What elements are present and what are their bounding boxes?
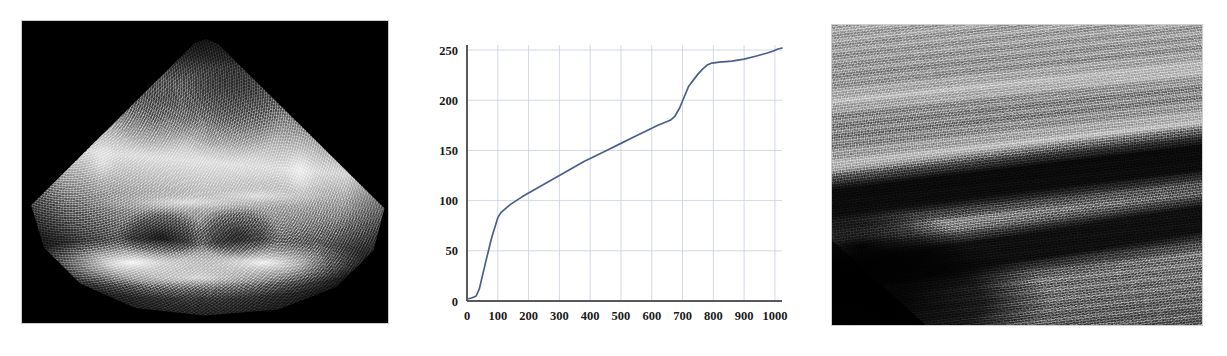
intensity-transfer-curve-chart: 01002003004005006007008009001000 0501001… xyxy=(410,20,795,340)
chart-y-tick-label: 50 xyxy=(446,244,459,258)
ultrasound-speckle-texture xyxy=(832,25,1202,325)
chart-x-tick-label: 1000 xyxy=(762,309,787,323)
chart-x-tick-label: 400 xyxy=(581,309,600,323)
cardiac-ultrasound-image xyxy=(22,21,388,323)
chart-y-tick-label: 200 xyxy=(439,94,458,108)
chart-x-tick-label: 500 xyxy=(612,309,631,323)
chart-x-tick-label: 600 xyxy=(642,309,661,323)
chart-x-tick-label: 900 xyxy=(735,309,754,323)
chart-x-tick-label: 700 xyxy=(673,309,692,323)
chart-x-tick-label: 0 xyxy=(464,309,470,323)
chart-y-tick-label: 150 xyxy=(439,144,458,158)
chart-x-tick-label: 200 xyxy=(519,309,538,323)
chart-x-tick-label: 300 xyxy=(550,309,569,323)
chart-svg: 01002003004005006007008009001000 0501001… xyxy=(410,20,795,340)
chart-x-tick-label: 100 xyxy=(488,309,507,323)
figure-panel-row: 01002003004005006007008009001000 0501001… xyxy=(0,0,1227,356)
chart-y-tick-label: 0 xyxy=(452,295,458,309)
linear-array-ultrasound-image xyxy=(832,25,1202,325)
chart-y-tick-label: 250 xyxy=(439,44,458,58)
chart-y-tick-label: 100 xyxy=(439,194,458,208)
ultrasound-speckle-texture xyxy=(22,21,388,323)
chart-x-tick-label: 800 xyxy=(704,309,723,323)
